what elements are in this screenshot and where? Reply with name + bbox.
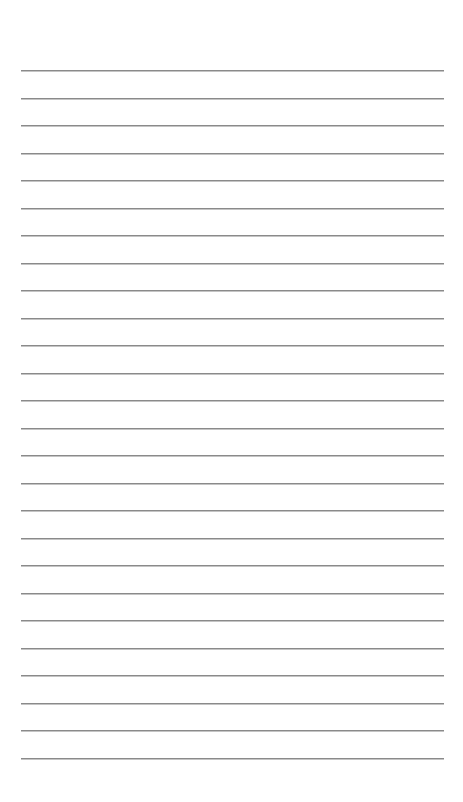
ruled-line [21, 70, 444, 72]
ruled-line [21, 345, 444, 347]
ruled-line [21, 235, 444, 237]
ruled-line [21, 180, 444, 182]
ruled-line [21, 538, 444, 540]
ruled-line [21, 455, 444, 457]
ruled-line [21, 703, 444, 705]
ruled-line [21, 208, 444, 210]
ruled-line [21, 153, 444, 155]
ruled-line [21, 125, 444, 127]
ruled-line [21, 98, 444, 100]
ruled-line [21, 318, 444, 320]
ruled-line [21, 373, 444, 375]
ruled-line [21, 400, 444, 402]
ruled-line [21, 648, 444, 650]
ruled-line [21, 758, 444, 760]
ruled-line [21, 675, 444, 677]
ruled-line [21, 483, 444, 485]
lined-paper-page [0, 0, 463, 802]
ruled-line [21, 510, 444, 512]
ruled-line [21, 620, 444, 622]
ruled-line [21, 263, 444, 265]
ruled-line [21, 593, 444, 595]
ruled-line [21, 565, 444, 567]
ruled-line [21, 290, 444, 292]
ruled-line [21, 428, 444, 430]
ruled-line [21, 730, 444, 732]
